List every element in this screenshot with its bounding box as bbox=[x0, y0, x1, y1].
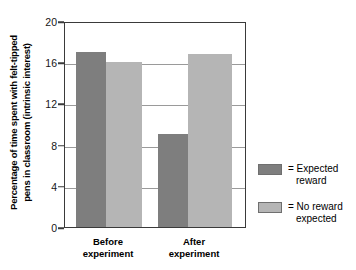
x-axis-label-before-line2: experiment bbox=[60, 248, 156, 260]
legend-swatch-expected-reward bbox=[258, 164, 282, 175]
x-axis-label-after-line2: experiment bbox=[146, 248, 242, 260]
x-axis-label-after-line1: After bbox=[183, 236, 205, 247]
legend-swatch-no-reward-expected bbox=[258, 202, 282, 213]
x-axis-label-before-line1: Before bbox=[93, 236, 123, 247]
y-tick-label-12: 12 bbox=[33, 98, 57, 110]
plot-inner bbox=[65, 23, 245, 227]
legend-item-no-reward-expected: = No reward expected bbox=[258, 201, 343, 225]
x-axis-label-after: After experiment bbox=[146, 236, 242, 259]
y-tick-label-0: 0 bbox=[33, 222, 57, 234]
legend-item-expected-reward: = Expected reward bbox=[258, 163, 343, 187]
bar-after-experiment-expected-reward bbox=[158, 134, 188, 227]
legend-label-expected-reward-line1: = Expected bbox=[288, 163, 338, 174]
legend-label-no-reward-expected-line1: = No reward bbox=[288, 201, 343, 212]
y-tick-label-4: 4 bbox=[33, 181, 57, 193]
legend-label-no-reward-expected-line2: expected bbox=[296, 213, 343, 225]
y-tick-label-20: 20 bbox=[33, 16, 57, 28]
y-tick-label-8: 8 bbox=[33, 140, 57, 152]
y-axis: 048121620 bbox=[0, 0, 64, 270]
legend-label-expected-reward-line2: reward bbox=[296, 175, 338, 187]
chart-figure: Percentage of time spent with felt-tippe… bbox=[0, 0, 356, 270]
legend: = Expected reward = No reward expected bbox=[258, 163, 343, 239]
bar-after-experiment-no-reward-expected bbox=[188, 54, 232, 227]
bar-before-experiment-no-reward-expected bbox=[106, 62, 142, 227]
x-axis-label-before: Before experiment bbox=[60, 236, 156, 259]
y-tick-label-16: 16 bbox=[33, 57, 57, 69]
plot-area bbox=[64, 22, 246, 228]
bar-before-experiment-expected-reward bbox=[76, 52, 106, 227]
